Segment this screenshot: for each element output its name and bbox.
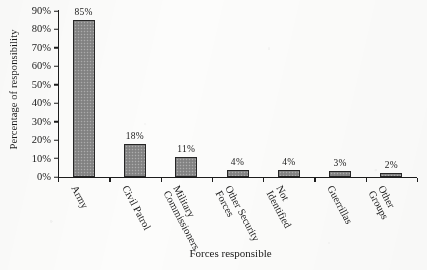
bar-chart: Percentage of responsibility 0%10%20%30%… <box>0 0 427 270</box>
x-tick-mark <box>58 178 59 182</box>
y-axis-line <box>58 10 59 178</box>
x-axis-title-text: Forces responsible <box>155 247 271 259</box>
x-tick-mark <box>417 178 418 182</box>
y-tick-label: 40% <box>32 98 51 109</box>
bar-value-label: 3% <box>333 158 346 168</box>
x-tick-mark <box>314 178 315 182</box>
bar-value-label: 4% <box>231 157 244 167</box>
x-category-label-other-security-forces: Other SecurityForces <box>213 184 261 248</box>
y-tick-50: 50% <box>32 80 58 91</box>
y-tick-label: 20% <box>32 135 51 146</box>
bar-value-label: 4% <box>282 157 295 167</box>
y-tick-10: 10% <box>32 153 58 164</box>
bar-value-label: 2% <box>385 160 398 170</box>
y-tick-90: 90% <box>32 6 58 17</box>
y-axis-title: Percentage of responsibility <box>4 0 22 178</box>
x-category-label-military-commissioners: MilitaryCommissioners <box>161 184 211 252</box>
y-tick-mark <box>54 84 58 85</box>
y-tick-mark <box>54 121 58 122</box>
y-axis-title-text: Percentage of responsibility <box>8 29 19 149</box>
y-tick-60: 60% <box>32 61 58 72</box>
x-category-label-line: Guerrillas <box>325 184 354 226</box>
y-tick-mark <box>54 66 58 67</box>
x-category-label-guerrillas: Guerrillas <box>325 184 354 226</box>
x-category-label-army: Army <box>68 184 89 211</box>
y-tick-40: 40% <box>32 98 58 109</box>
y-tick-20: 20% <box>32 135 58 146</box>
bar-other-groups <box>380 173 402 177</box>
bar-guerrillas <box>329 171 351 177</box>
bar-military-commissioners <box>175 157 197 177</box>
y-tick-label: 30% <box>32 116 51 127</box>
y-tick-80: 80% <box>32 24 58 35</box>
y-tick-label: 90% <box>32 6 51 17</box>
x-category-label-other-groups: OtherGroups <box>366 184 399 221</box>
bar-value-label: 11% <box>177 144 195 154</box>
x-tick-mark <box>366 178 367 182</box>
x-tick-mark <box>109 178 110 182</box>
bar-army <box>73 20 95 177</box>
bar-value-label: 18% <box>126 131 144 141</box>
bar-other-security-forces <box>227 170 249 177</box>
y-tick-label: 80% <box>32 24 51 35</box>
y-tick-label: 70% <box>32 43 51 54</box>
y-tick-mark <box>54 10 58 11</box>
x-tick-mark <box>212 178 213 182</box>
y-tick-mark <box>54 29 58 30</box>
x-category-label-line: Civil Patrol <box>119 184 151 232</box>
y-tick-mark <box>54 158 58 159</box>
y-tick-label: 10% <box>32 153 51 164</box>
y-tick-label: 60% <box>32 61 51 72</box>
y-tick-label: 0% <box>37 172 51 183</box>
plot-area: 0%10%20%30%40%50%60%70%80%90% 85%18%11%4… <box>58 10 417 178</box>
bar-value-label: 85% <box>74 7 92 17</box>
y-tick-mark <box>54 139 58 140</box>
bar-civil-patrol <box>124 144 146 177</box>
x-axis-line <box>58 177 417 178</box>
x-category-label-civil-patrol: Civil Patrol <box>119 184 151 232</box>
y-tick-30: 30% <box>32 116 58 127</box>
y-tick-0: 0% <box>37 172 58 183</box>
y-tick-70: 70% <box>32 43 58 54</box>
y-tick-mark <box>54 103 58 104</box>
x-axis-title: Forces responsible <box>0 247 427 259</box>
bar-not-identified <box>278 170 300 177</box>
y-tick-mark <box>54 47 58 48</box>
x-tick-mark <box>263 178 264 182</box>
x-category-label-not-identified: NotIdentified <box>264 184 302 230</box>
x-category-label-line: Army <box>68 184 89 211</box>
y-tick-label: 50% <box>32 80 51 91</box>
x-tick-mark <box>161 178 162 182</box>
